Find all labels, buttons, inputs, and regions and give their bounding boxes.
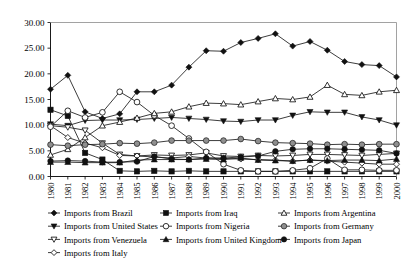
data-point [324,82,330,87]
legend-marker-icon [281,237,286,242]
data-point [65,113,70,118]
data-point [307,146,313,152]
data-point [82,134,88,139]
legend-item-label: Imports from United States [64,221,158,231]
data-point [376,167,382,173]
data-point [134,169,139,174]
data-point [290,140,296,146]
legend-item-label: Imports from Germany [294,221,374,231]
data-point [238,136,244,142]
legend-item[interactable]: Imports from Argentina [278,208,376,218]
x-axis-tick-label: 1982 [80,183,90,200]
chart-legend: Imports from BrazilImports from United S… [48,208,376,258]
data-point [342,147,348,153]
legend-item[interactable]: Imports from Germany [278,221,374,231]
legend-item[interactable]: Imports from Italy [48,248,128,258]
legend-item-label: Imports from Brazil [64,208,133,218]
data-point [342,141,348,147]
data-point [186,157,192,163]
x-axis-tick-label: 1998 [357,183,367,200]
data-point [100,141,106,147]
data-point [152,154,158,160]
legend-item[interactable]: Imports from United Kingdom [160,235,282,245]
legend-marker-icon [51,250,57,256]
data-point [394,151,400,157]
data-point [134,141,140,147]
data-point [65,134,71,140]
data-point [376,148,382,154]
data-point [82,128,88,133]
data-point [169,156,175,162]
legend-marker-icon [163,210,168,215]
legend-item[interactable]: Imports from Iraq [160,208,238,218]
data-point [203,149,209,155]
data-point [100,159,106,165]
data-point [307,94,313,99]
data-point [238,40,244,46]
y-axis-tick-label: 30.00 [24,18,45,28]
x-axis-tick-label: 1994 [288,182,298,200]
data-point [152,168,157,173]
data-point [82,142,88,148]
legend-marker-icon [163,223,169,229]
data-point [221,138,227,144]
y-axis-tick-label: 0.00 [29,172,45,182]
y-axis-tick-label: 10.00 [24,120,45,130]
legend-item[interactable]: Imports from United States [48,221,158,231]
legend-item[interactable]: Imports from Japan [278,235,362,245]
data-point [48,124,54,130]
chart-container: 0.005.0010.0015.0020.0025.0030.00 198019… [0,0,415,264]
x-axis-tick-label: 1992 [253,183,263,200]
data-point [169,169,174,174]
data-point [342,59,348,65]
data-point [117,89,123,95]
data-point [82,109,88,115]
data-point [359,167,365,173]
data-point [376,141,382,147]
legend-item[interactable]: Imports from Brazil [48,208,133,218]
data-point [48,142,54,148]
data-point [221,169,226,174]
x-axis-tick-label: 1999 [374,183,384,200]
data-point [325,146,331,152]
data-point [394,161,400,167]
data-point [394,156,400,161]
x-axis-tick-label: 1996 [323,183,333,200]
x-axis-tick-label: 2000 [392,183,402,200]
x-axis-tick-label: 1997 [340,183,350,200]
data-point [359,147,365,153]
series-layer [48,31,400,174]
x-axis-tick-label: 1988 [184,183,194,200]
legend-marker-icon [51,210,57,216]
legend-marker-icon [281,223,287,229]
data-point [342,91,348,96]
data-point [203,155,209,161]
data-point [65,158,71,164]
data-point [221,48,227,54]
legend-item[interactable]: Imports from Venezuela [48,235,147,245]
data-point [273,140,279,146]
data-point [394,167,400,173]
data-point [100,109,106,115]
legend-item-label: Imports from Nigeria [176,221,250,231]
data-point [221,155,227,161]
legend-item[interactable]: Imports from Nigeria [160,221,250,231]
data-point [307,38,313,44]
data-point [359,142,365,148]
data-point [134,99,140,105]
data-point [359,62,365,68]
imports-line-chart: 0.005.0010.0015.0020.0025.0030.00 198019… [0,0,415,264]
data-point [290,167,296,173]
data-point [82,115,88,121]
legend-item-label: Imports from Iraq [176,208,238,218]
legend-item-label: Imports from Argentina [294,208,376,218]
data-point [134,159,140,165]
x-axis-tick-label: 1980 [46,183,56,200]
y-axis-tick-label: 25.00 [24,43,45,53]
x-axis-tick-label: 1985 [132,183,142,200]
x-axis-tick-label: 1984 [115,182,125,200]
data-point [238,167,244,173]
data-point [117,168,122,173]
x-axis-tick-label: 1989 [201,183,211,200]
legend-item-label: Imports from Venezuela [64,235,147,245]
